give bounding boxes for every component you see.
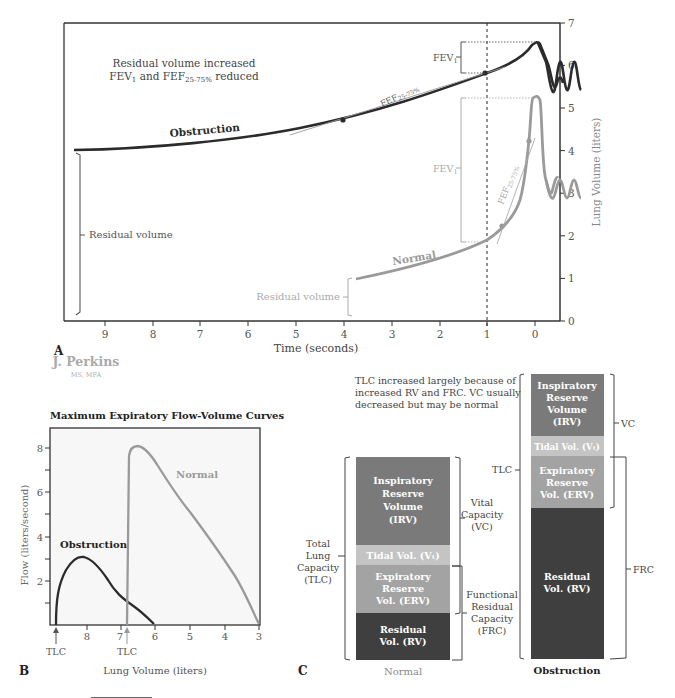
time-axis-label: Time (seconds) (274, 342, 359, 355)
obstruction-curve-label: Obstruction (169, 121, 240, 139)
signature-name: J. Perkins (52, 354, 120, 369)
ytick-5: 5 (568, 102, 575, 114)
panel-a-annotation-line2: FEV1 and FEF25-75% reduced (109, 70, 259, 84)
lung-volume-axis-ticks (87, 625, 259, 630)
vol-tick-5: 5 (187, 631, 193, 642)
xtick-0: 0 (532, 328, 539, 340)
panel-b-letter: B (19, 664, 29, 678)
figure-canvas: 9 8 7 6 5 4 3 2 1 0 Time (seconds) A 0 1 (0, 0, 675, 698)
panel-c-note-line1: TLC increased largely because of (355, 375, 517, 386)
obstruction-tidal-label: Tidal Vol. (Vₜ) (534, 442, 600, 452)
normal-residual-volume-label: Residual volume (256, 291, 340, 302)
obstruction-irv-line3: Volume (546, 404, 586, 415)
normal-irv-line3: Volume (382, 501, 422, 512)
panel-b-title: Maximum Expiratory Flow-Volume Curves (50, 410, 284, 421)
obstruction-residual-volume-bracket (76, 153, 80, 315)
normal-erv-line1: Expiratory (375, 571, 431, 582)
obstruction-fev1-bracket (461, 42, 465, 73)
normal-irv-line2: Reserve (382, 488, 424, 499)
flow-axis-ticks (45, 448, 50, 603)
xtick-3: 3 (389, 328, 396, 340)
obstruction-tlc-label: TLC (46, 646, 66, 657)
normal-volumes-bar: Inspiratory Reserve Volume (IRV) Tidal V… (356, 457, 450, 660)
panel-c-note-line2: increased RV and FRC. VC usually (355, 387, 521, 398)
obstruction-erv-line1: Expiratory (539, 465, 595, 476)
obstruction-frc-label: FRC (633, 564, 654, 575)
flow-tick-2: 2 (37, 576, 43, 587)
flow-axis-tick-labels: 2 4 6 8 (37, 443, 43, 587)
obstruction-rv-line2: Vol. (RV) (543, 583, 591, 594)
svg-text:Vital: Vital (470, 497, 493, 508)
normal-residual-volume-bracket (348, 278, 352, 316)
obstruction-erv-line3: Vol. (ERV) (539, 489, 594, 500)
ytick-1: 1 (568, 272, 575, 284)
normal-fev1-bracket (461, 98, 465, 242)
panel-b-plot-frame (50, 428, 260, 625)
svg-text:(VC): (VC) (471, 521, 493, 532)
normal-erv-line3: Vol. (ERV) (375, 595, 430, 606)
ytick-2: 2 (568, 230, 575, 242)
obstruction-tlc-label: TLC (492, 464, 512, 475)
panel-a: 9 8 7 6 5 4 3 2 1 0 Time (seconds) A 0 1 (53, 17, 602, 358)
panel-c-letter: C (298, 664, 308, 678)
obstruction-fev1-label: FEV1 (433, 52, 458, 65)
flow-axis-label: Flow (liters/second) (19, 484, 30, 585)
svg-text:Functional: Functional (466, 589, 518, 600)
panel-c-note-line3: decreased but may be normal (355, 399, 498, 410)
obstruction-fef-point-start (340, 117, 345, 122)
normal-rv-line1: Residual (380, 624, 427, 635)
svg-text:Total: Total (306, 538, 330, 549)
obstruction-volumes-bar: Inspiratory Reserve Volume (IRV) Tidal V… (531, 374, 604, 659)
normal-tlc-label: TLC (117, 646, 137, 657)
obstruction-bar-caption: Obstruction (534, 665, 602, 676)
vol-tick-4: 4 (222, 631, 228, 642)
svg-text:Capacity: Capacity (461, 509, 504, 520)
flow-tick-8: 8 (37, 443, 43, 454)
signature-credentials: MS, MFA (71, 371, 102, 379)
obstruction-erv-line2: Reserve (546, 477, 588, 488)
flow-tick-4: 4 (37, 532, 43, 543)
normal-tlc-label: Total Lung Capacity (TLC) (297, 538, 340, 585)
normal-curve-label-b: Normal (176, 469, 218, 480)
normal-erv-line2: Reserve (382, 583, 424, 594)
xtick-9: 9 (102, 328, 109, 340)
obstruction-irv-line4: (IRV) (553, 416, 581, 427)
flow-tick-6: 6 (37, 487, 43, 498)
obstruction-tlc-bracket (520, 374, 524, 659)
vol-tick-3: 3 (256, 631, 262, 642)
normal-fef-point-start (499, 223, 504, 228)
svg-text:Capacity: Capacity (471, 613, 514, 624)
obstruction-vc-label: VC (620, 418, 635, 429)
xtick-5: 5 (293, 328, 300, 340)
ytick-4: 4 (568, 145, 575, 157)
vol-tick-6: 6 (152, 631, 158, 642)
normal-volume-curve (356, 96, 558, 279)
normal-vc-label: Vital Capacity (VC) (461, 497, 504, 532)
ytick-7: 7 (568, 17, 575, 29)
obstruction-irv-line1: Inspiratory (537, 380, 597, 391)
artist-signature: J. Perkins MS, MFA (52, 354, 120, 379)
panel-c: TLC increased largely because of increas… (297, 374, 654, 678)
xtick-7: 7 (197, 328, 204, 340)
normal-tidal-label: Tidal Vol. (Vₜ) (366, 550, 439, 561)
volume-axis-label: Lung Volume (liters) (590, 118, 602, 227)
ytick-0: 0 (568, 315, 575, 327)
xtick-1: 1 (484, 328, 491, 340)
time-axis-tick-labels: 9 8 7 6 5 4 3 2 1 0 (102, 328, 539, 340)
normal-tidal-breathing (546, 180, 581, 198)
svg-text:Lung: Lung (306, 550, 331, 561)
obstruction-frc-bracket (610, 457, 626, 659)
xtick-8: 8 (150, 328, 157, 340)
normal-fef-point-end (526, 138, 531, 143)
xtick-2: 2 (437, 328, 444, 340)
vol-tick-7: 7 (117, 631, 123, 642)
svg-text:(TLC): (TLC) (304, 574, 331, 585)
obstruction-residual-volume-label: Residual volume (89, 229, 173, 240)
normal-tlc-bracket (345, 457, 350, 660)
normal-frc-label: Functional Residual Capacity (FRC) (466, 589, 518, 636)
normal-fev1-label: FEV1 (433, 163, 458, 176)
normal-fef-label: FEF25-75% (496, 164, 521, 206)
svg-text:(FRC): (FRC) (478, 625, 506, 636)
obstruction-rv-line1: Residual (544, 571, 591, 582)
normal-rv-line2: Vol. (RV) (379, 636, 427, 647)
